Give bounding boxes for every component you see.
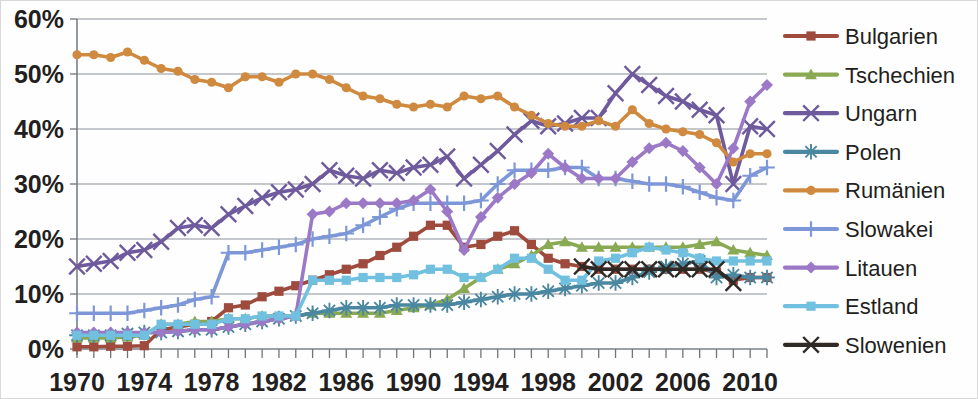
y-axis-tick-label: 0%: [28, 335, 64, 363]
data-point-marker: [661, 245, 670, 254]
data-point-marker: [157, 320, 166, 329]
data-point-marker: [140, 56, 149, 65]
data-point-marker: [106, 53, 115, 62]
data-point-marker: [291, 311, 300, 320]
data-point-marker: [103, 305, 119, 321]
chart-svg: 0%10%20%30%40%50%60% 1970197419781982198…: [1, 1, 978, 399]
legend-label: Estland: [845, 294, 918, 319]
legend-label: Tschechien: [845, 63, 955, 88]
data-point-marker: [678, 127, 687, 136]
data-point-marker: [173, 67, 182, 76]
data-point-marker: [274, 78, 283, 87]
data-point-marker: [493, 265, 502, 274]
data-point-marker: [355, 217, 371, 233]
data-point-marker: [510, 254, 519, 263]
data-point-marker: [540, 162, 556, 178]
data-point-marker: [307, 208, 319, 220]
data-point-marker: [456, 294, 472, 310]
data-point-marker: [241, 300, 250, 309]
data-point-marker: [389, 297, 405, 313]
data-point-marker: [409, 232, 418, 241]
data-point-marker: [358, 273, 367, 282]
data-point-marker: [72, 342, 81, 351]
data-point-marker: [746, 149, 755, 158]
data-point-marker: [473, 157, 489, 173]
data-point-marker: [224, 303, 233, 312]
legend-label: Slowakei: [845, 217, 933, 242]
legend-item-rumänien[interactable]: Rumänien: [785, 178, 945, 203]
legend-item-slowenien[interactable]: Slowenien: [785, 333, 947, 358]
data-point-marker: [173, 320, 182, 329]
data-point-marker: [323, 206, 335, 218]
data-point-marker: [258, 292, 267, 301]
legend-item-tschechien[interactable]: Tschechien: [785, 63, 955, 88]
data-point-marker: [170, 297, 186, 313]
data-point-marker: [544, 254, 553, 263]
data-point-marker: [221, 245, 237, 261]
data-point-marker: [524, 286, 540, 302]
data-point-marker: [409, 102, 418, 111]
y-axis-tick-label: 10%: [14, 280, 64, 308]
data-point-marker: [89, 331, 98, 340]
data-point-marker: [224, 314, 233, 323]
data-point-marker: [342, 276, 351, 285]
data-point-marker: [423, 297, 439, 313]
data-point-marker: [594, 256, 603, 265]
data-point-marker: [493, 232, 502, 241]
data-point-marker: [237, 245, 253, 261]
legend-item-slowakei[interactable]: Slowakei: [785, 217, 933, 242]
data-point-marker: [190, 320, 199, 329]
data-point-marker: [342, 83, 351, 92]
legend-item-litauen[interactable]: Litauen: [785, 256, 917, 281]
data-point-marker: [805, 262, 817, 274]
y-axis-tick-label: 30%: [14, 170, 64, 198]
data-point-marker: [678, 248, 687, 257]
data-point-marker: [594, 116, 603, 125]
data-point-marker: [658, 176, 674, 192]
data-point-marker: [759, 270, 775, 286]
legend-item-polen[interactable]: Polen: [785, 140, 901, 165]
legend-item-bulgarien[interactable]: Bulgarien: [785, 24, 938, 49]
data-point-marker: [803, 144, 819, 160]
data-point-marker: [476, 240, 485, 249]
legend-label: Litauen: [845, 256, 917, 281]
data-point-marker: [355, 300, 371, 316]
data-point-marker: [459, 273, 468, 282]
data-point-marker: [625, 270, 641, 286]
data-point-marker: [611, 122, 620, 131]
data-point-marker: [375, 251, 384, 260]
data-point-marker: [490, 143, 506, 159]
data-point-marker: [560, 122, 569, 131]
data-point-marker: [527, 240, 536, 249]
data-point-marker: [237, 198, 253, 214]
data-point-marker: [89, 342, 98, 351]
x-axis-tick-label: 1994: [453, 368, 509, 396]
data-point-marker: [712, 256, 721, 265]
data-point-marker: [628, 105, 637, 114]
x-axis-tick-label: 1982: [251, 368, 307, 396]
data-point-marker: [510, 102, 519, 111]
data-point-marker: [608, 275, 624, 291]
data-point-marker: [443, 265, 452, 274]
legend-item-estland[interactable]: Estland: [785, 294, 918, 319]
data-point-marker: [375, 94, 384, 103]
data-point-marker: [305, 305, 321, 321]
data-point-marker: [357, 197, 369, 209]
data-point-marker: [258, 72, 267, 81]
data-point-marker: [375, 273, 384, 282]
data-point-marker: [207, 320, 216, 329]
data-point-marker: [254, 242, 270, 258]
data-point-marker: [392, 100, 401, 109]
data-point-marker: [274, 311, 283, 320]
chart-container: 0%10%20%30%40%50%60% 1970197419781982198…: [0, 0, 978, 399]
data-point-marker: [473, 292, 489, 308]
data-point-marker: [695, 254, 704, 263]
data-point-marker: [645, 119, 654, 128]
data-point-marker: [426, 221, 435, 230]
data-point-marker: [510, 226, 519, 235]
data-point-marker: [660, 137, 672, 149]
data-point-marker: [759, 160, 775, 176]
data-point-marker: [742, 270, 758, 286]
legend-label: Bulgarien: [845, 24, 938, 49]
legend-item-ungarn[interactable]: Ungarn: [785, 101, 917, 126]
